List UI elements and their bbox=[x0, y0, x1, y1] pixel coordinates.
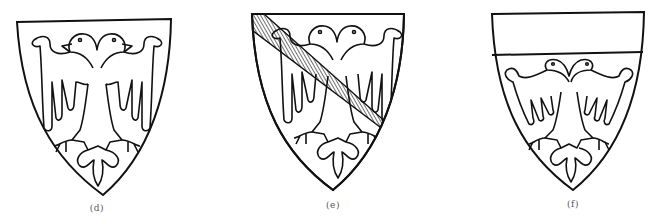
shield-figure-f: (f) bbox=[437, 0, 657, 223]
figure-label-d: (d) bbox=[90, 203, 104, 213]
shield-e-eagle-bend-icon bbox=[220, 0, 440, 223]
figure-label-e: (e) bbox=[326, 200, 340, 210]
shield-figure-e: (e) bbox=[220, 0, 440, 223]
shield-d-eagle-icon bbox=[0, 0, 220, 223]
shield-figure-d: (d) bbox=[0, 0, 220, 223]
shield-f-eagle-chief-icon bbox=[437, 0, 657, 223]
figure-label-f: (f) bbox=[567, 199, 579, 209]
